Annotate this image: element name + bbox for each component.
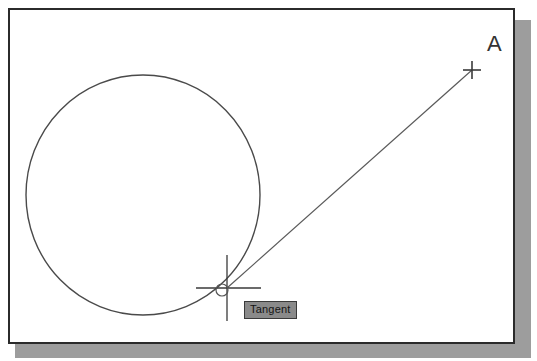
drawing-canvas-window[interactable] [8,8,515,344]
point-label-a: A [487,33,502,55]
cad-drawing-app: A Tangent [0,0,537,361]
tangent-osnap-tooltip: Tangent [244,301,297,319]
